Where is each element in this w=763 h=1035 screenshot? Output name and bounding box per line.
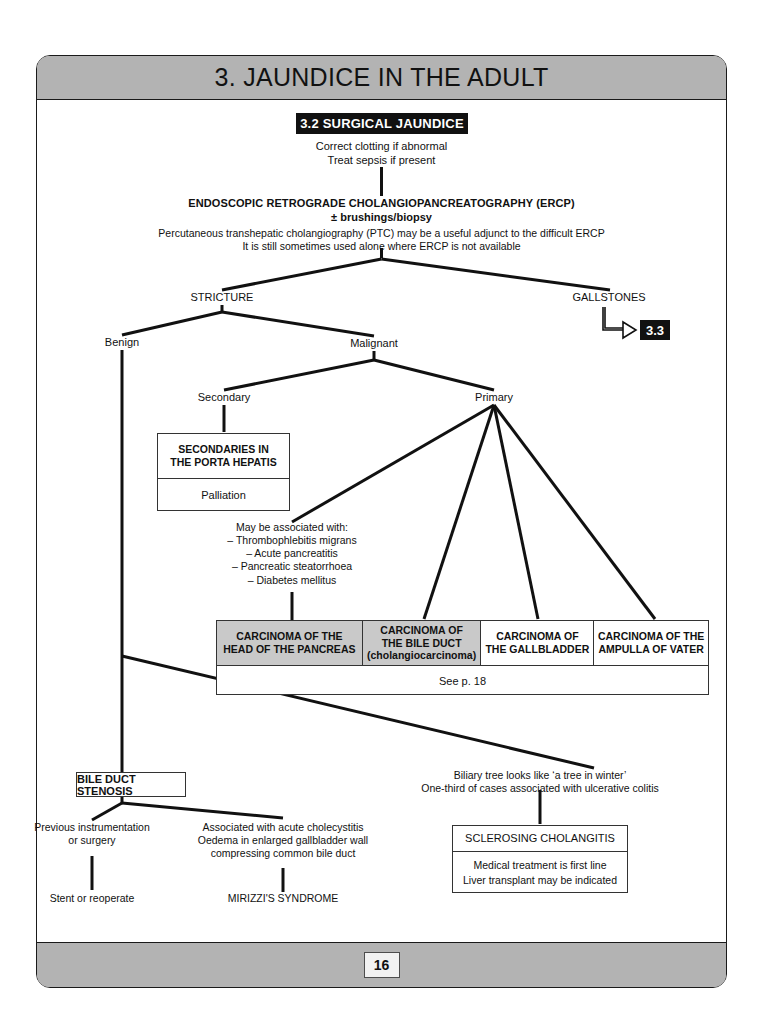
- carcinoma-col2-line3: (cholangiocarcinoma): [367, 649, 476, 662]
- associated-heading: May be associated with:: [202, 521, 382, 534]
- box-secondaries-header-line1: SECONDARIES IN: [178, 443, 268, 456]
- associated-item-4: – Diabetes mellitus: [202, 574, 382, 587]
- prep-instructions: Correct clotting if abnormal Treat sepsi…: [281, 140, 482, 168]
- box-secondaries-body-text: Palliation: [201, 488, 246, 503]
- node-benign-label: Benign: [105, 336, 139, 348]
- box-secondaries-porta-hepatis: SECONDARIES IN THE PORTA HEPATIS Palliat…: [157, 433, 290, 511]
- node-primary: Primary: [449, 391, 539, 405]
- node-previous-instrumentation: Previous instrumentation or surgery: [22, 821, 162, 847]
- page-title: 3. JAUNDICE IN THE ADULT: [214, 63, 548, 92]
- carcinoma-col3-line2: THE GALLBLADDER: [485, 643, 589, 656]
- section-chip-surgical-jaundice: 3.2 SURGICAL JAUNDICE: [296, 113, 468, 134]
- box-bile-duct-stenosis: BILE DUCT STENOSIS: [76, 772, 186, 797]
- assoc-cholecystitis-line3: compressing common bile duct: [180, 847, 386, 860]
- stent-or-reoperate-label: Stent or reoperate: [50, 892, 135, 904]
- ercp-title: ENDOSCOPIC RETROGRADE CHOLANGIOPANCREATO…: [81, 197, 682, 211]
- carcinoma-col2-line1: CARCINOMA OF: [380, 624, 462, 637]
- node-gallstones: GALLSTONES: [554, 291, 664, 305]
- carcinoma-column-bile-duct: CARCINOMA OF THE BILE DUCT (cholangiocar…: [363, 621, 482, 665]
- associated-item-2: – Acute pancreatitis: [202, 547, 382, 560]
- box-sclerosing-header: SCLEROSING CHOLANGITIS: [453, 826, 627, 852]
- node-biliary-tree-description: Biliary tree looks like ‘a tree in winte…: [412, 769, 668, 795]
- node-malignant-label: Malignant: [350, 337, 398, 349]
- page-footer-bar: 16: [37, 942, 726, 987]
- carcinoma-col4-line2: AMPULLA OF VATER: [598, 643, 703, 656]
- node-primary-label: Primary: [475, 391, 513, 403]
- carcinoma-table-footer: See p. 18: [217, 666, 708, 697]
- ercp-block: ENDOSCOPIC RETROGRADE CHOLANGIOPANCREATO…: [81, 197, 682, 253]
- node-stent-or-reoperate: Stent or reoperate: [27, 892, 157, 905]
- box-bile-duct-stenosis-label: BILE DUCT STENOSIS: [77, 773, 185, 797]
- assoc-cholecystitis-line2: Oedema in enlarged gallbladder wall: [180, 834, 386, 847]
- flowchart-page: 3. JAUNDICE IN THE ADULT 16: [0, 0, 763, 1035]
- carcinoma-column-gallbladder: CARCINOMA OF THE GALLBLADDER: [481, 621, 594, 665]
- box-sclerosing-body-line1: Medical treatment is first line: [473, 858, 606, 872]
- previous-instrumentation-line1: Previous instrumentation: [22, 821, 162, 834]
- node-malignant: Malignant: [329, 337, 419, 351]
- node-stricture-label: STRICTURE: [191, 291, 254, 303]
- node-stricture: STRICTURE: [172, 291, 272, 305]
- node-secondary: Secondary: [179, 391, 269, 405]
- ercp-subtitle: ± brushings/biopsy: [81, 211, 682, 225]
- previous-instrumentation-line2: or surgery: [22, 834, 162, 847]
- page-title-bar: 3. JAUNDICE IN THE ADULT: [37, 56, 726, 100]
- box-sclerosing-header-label: SCLEROSING CHOLANGITIS: [465, 832, 615, 845]
- biliary-tree-line2: One-third of cases associated with ulcer…: [412, 782, 668, 795]
- associated-item-1: – Thrombophlebitis migrans: [202, 534, 382, 547]
- carcinoma-table-header-row: CARCINOMA OF THE HEAD OF THE PANCREAS CA…: [217, 621, 708, 666]
- ercp-note-2: It is still sometimes used alone where E…: [81, 240, 682, 253]
- carcinoma-col4-line1: CARCINOMA OF THE: [598, 630, 704, 643]
- node-gallstones-label: GALLSTONES: [572, 291, 645, 303]
- carcinoma-col3-line1: CARCINOMA OF: [496, 630, 578, 643]
- associated-conditions-list: May be associated with: – Thrombophlebit…: [202, 521, 382, 587]
- node-benign: Benign: [77, 336, 167, 350]
- box-sclerosing-body-line2: Liver transplant may be indicated: [463, 873, 617, 887]
- box-sclerosing-cholangitis: SCLEROSING CHOLANGITIS Medical treatment…: [452, 825, 628, 893]
- prep-line-1: Correct clotting if abnormal: [281, 140, 482, 154]
- assoc-cholecystitis-line1: Associated with acute cholecystitis: [180, 821, 386, 834]
- mirizzi-syndrome-label: MIRIZZI'S SYNDROME: [228, 892, 339, 904]
- reference-box-3-3[interactable]: 3.3: [640, 320, 670, 340]
- box-secondaries-header-line2: THE PORTA HEPATIS: [170, 456, 276, 469]
- node-secondary-label: Secondary: [198, 391, 251, 403]
- carcinoma-column-ampulla-of-vater: CARCINOMA OF THE AMPULLA OF VATER: [594, 621, 708, 665]
- reference-box-label: 3.3: [646, 323, 664, 338]
- box-secondaries-header: SECONDARIES IN THE PORTA HEPATIS: [158, 434, 289, 479]
- carcinoma-col1-line2: HEAD OF THE PANCREAS: [223, 643, 355, 656]
- prep-line-2: Treat sepsis if present: [281, 154, 482, 168]
- carcinoma-table: CARCINOMA OF THE HEAD OF THE PANCREAS CA…: [216, 620, 709, 695]
- section-chip-label: 3.2 SURGICAL JAUNDICE: [300, 116, 464, 131]
- ercp-note-1: Percutaneous transhepatic cholangiograph…: [81, 227, 682, 240]
- carcinoma-column-head-of-pancreas: CARCINOMA OF THE HEAD OF THE PANCREAS: [217, 621, 363, 665]
- page-number: 16: [364, 952, 400, 978]
- carcinoma-col2-line2: THE BILE DUCT: [382, 637, 462, 650]
- box-secondaries-body: Palliation: [158, 479, 289, 512]
- box-sclerosing-body: Medical treatment is first line Liver tr…: [453, 852, 627, 893]
- biliary-tree-line1: Biliary tree looks like ‘a tree in winte…: [412, 769, 668, 782]
- associated-item-3: – Pancreatic steatorrhoea: [202, 560, 382, 573]
- node-mirizzi-syndrome: MIRIZZI'S SYNDROME: [213, 892, 353, 905]
- carcinoma-col1-line1: CARCINOMA OF THE: [236, 630, 342, 643]
- node-associated-cholecystitis: Associated with acute cholecystitis Oede…: [180, 821, 386, 860]
